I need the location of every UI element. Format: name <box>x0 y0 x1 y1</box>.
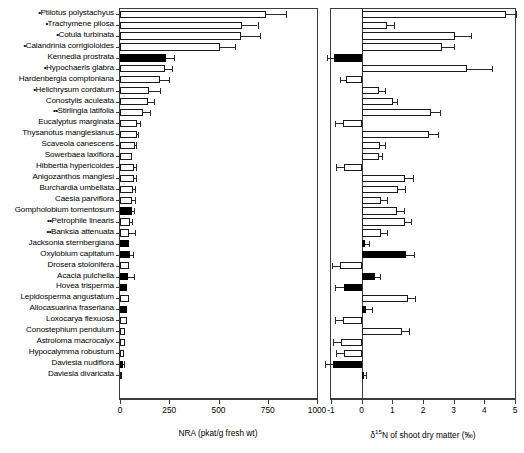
error-bar-cap <box>340 77 341 83</box>
data-bar <box>120 87 149 94</box>
table-row <box>331 107 515 118</box>
table-row <box>331 239 515 250</box>
table-row <box>120 370 317 381</box>
nitrate-marker-dots: •• <box>47 216 51 225</box>
table-row <box>331 140 515 151</box>
table-row <box>120 129 317 140</box>
error-bar-whisker <box>165 69 172 70</box>
data-bar <box>120 43 220 50</box>
error-bar-cap <box>136 175 137 181</box>
data-bar <box>362 251 406 258</box>
error-bar-whisker <box>160 80 168 81</box>
table-row <box>120 250 317 261</box>
nitrate-marker-dots: • <box>56 30 58 39</box>
data-bar <box>362 109 431 116</box>
species-label: •Helichrysum cordatum <box>0 85 116 96</box>
error-bar-cap <box>133 252 134 258</box>
species-label: ••Stirlingia latifolia <box>0 106 116 117</box>
table-row <box>120 86 317 97</box>
table-row <box>331 31 515 42</box>
data-bar <box>362 43 442 50</box>
x-axis-tick-label: 1 <box>390 405 395 415</box>
table-row <box>120 42 317 53</box>
data-bar <box>120 350 124 357</box>
nitrate-marker-dots: •• <box>53 106 57 115</box>
error-bar-whisker <box>241 36 260 37</box>
nra-plot-panel <box>119 8 318 399</box>
error-bar-whisker <box>332 266 341 267</box>
table-row <box>120 282 317 293</box>
nra-axis-title: NRA (pkat/g fresh wt) <box>179 428 258 438</box>
data-bar <box>120 11 266 18</box>
table-row <box>120 118 317 129</box>
x-axis-tick <box>454 399 455 404</box>
error-bar-cap <box>132 219 133 225</box>
data-bar <box>333 361 361 368</box>
isotope-superscript: 15 <box>375 428 382 435</box>
error-bar-whisker <box>405 222 412 223</box>
species-label: Sowerbaea laxiflora <box>0 150 116 161</box>
species-label: Conostylis aculeata <box>0 96 116 107</box>
error-bar-cap <box>140 121 141 127</box>
data-bar <box>362 22 387 29</box>
error-bar-cap <box>332 263 333 269</box>
table-row <box>331 272 515 283</box>
error-bar-cap <box>440 110 441 116</box>
error-bar-cap <box>235 44 236 50</box>
species-label: Allocasuarina fraseriana <box>0 303 116 314</box>
error-bar-cap <box>372 307 373 313</box>
table-row <box>120 304 317 315</box>
data-bar <box>344 350 362 357</box>
nitrate-marker-dots: • <box>38 8 40 17</box>
table-row <box>120 97 317 108</box>
error-bar-whisker <box>143 112 150 113</box>
table-row <box>120 206 317 217</box>
error-bar-cap <box>336 350 337 356</box>
data-bar <box>120 372 122 379</box>
table-row <box>120 195 317 206</box>
x-axis-tick <box>392 399 393 404</box>
species-label: Drosera stolonifera <box>0 260 116 271</box>
species-label: •Calandrinia corrigioloides <box>0 41 116 52</box>
error-bar-cap <box>471 33 472 39</box>
error-bar-cap <box>335 121 336 127</box>
data-bar <box>340 262 361 269</box>
data-bar <box>343 120 362 127</box>
nra-bar-rows <box>120 9 317 398</box>
x-axis-tick-label: 0 <box>118 405 123 415</box>
error-bar-whisker <box>166 58 174 59</box>
data-bar <box>120 229 129 236</box>
x-axis-tick-label: -1 <box>327 405 334 415</box>
error-bar-whisker <box>327 58 334 59</box>
table-row <box>331 42 515 53</box>
table-row <box>120 337 317 348</box>
error-bar-whisker <box>429 134 438 135</box>
species-label: Conostephium pendulum <box>0 325 116 336</box>
data-bar <box>344 164 362 171</box>
error-bar-whisker <box>220 47 234 48</box>
table-row <box>120 293 317 304</box>
species-label: Hypocalymma robustum <box>0 347 116 358</box>
table-row <box>331 261 515 272</box>
x-axis-tick-label: 250 <box>162 405 176 415</box>
data-bar <box>362 32 456 39</box>
data-bar <box>120 328 125 335</box>
error-bar-cap <box>438 132 439 138</box>
error-bar-cap <box>134 274 135 280</box>
error-bar-cap <box>411 219 412 225</box>
figure-container: •Ptilotus polystachyus•Trachymene pilosa… <box>0 0 524 453</box>
x-axis-tick <box>268 399 269 404</box>
error-bar-whisker <box>455 36 471 37</box>
species-label: •Ptilotus polystachyus <box>0 8 116 19</box>
table-row <box>120 9 317 20</box>
table-row <box>331 326 515 337</box>
error-bar-whisker <box>431 112 441 113</box>
data-bar <box>346 76 362 83</box>
table-row <box>331 304 515 315</box>
error-bar-cap <box>136 142 137 148</box>
error-bar-whisker <box>149 91 160 92</box>
error-bar-cap <box>150 110 151 116</box>
table-row <box>120 173 317 184</box>
error-bar-whisker <box>335 123 343 124</box>
error-bar-whisker <box>406 255 414 256</box>
